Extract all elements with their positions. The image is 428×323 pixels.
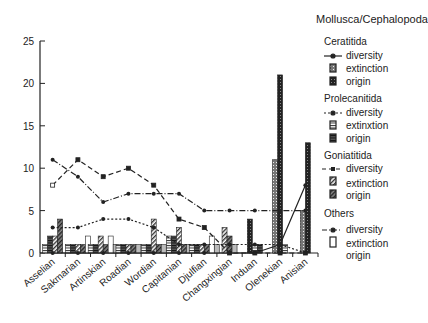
bar [177,228,182,253]
bar [300,211,305,253]
bar [141,245,146,253]
bar [136,245,141,253]
bar [93,245,98,253]
bar [222,228,227,253]
bar [273,160,278,253]
bar [121,245,126,253]
bar [108,236,113,253]
bar [172,236,177,253]
bar [214,245,219,253]
bar [146,245,151,253]
bar [116,245,121,253]
bar [53,236,58,253]
bar [156,245,161,253]
bar [305,143,310,253]
bar [182,245,187,253]
bar [194,245,199,253]
y-tick-label: 25 [23,36,35,47]
bar [70,245,75,253]
legend-symbols [318,0,419,270]
bar [278,75,283,253]
bar [43,245,48,253]
bar [65,245,70,253]
bar [80,245,85,253]
bar [247,219,252,253]
y-tick-label: 10 [23,163,35,174]
bar [232,245,237,253]
bar [189,245,194,253]
bar [98,236,103,253]
y-tick-label: 15 [23,121,35,132]
bar [151,219,156,253]
x-axis-labels: AsselianSakmarianArtinskianRoadianWordia… [21,256,310,304]
y-tick-label: 5 [28,206,34,217]
x-tick-label: Anisian [277,256,309,286]
bar [88,245,93,253]
bar [48,236,53,253]
diversity-line [53,160,306,211]
y-tick-label: 0 [28,248,34,259]
bar [58,219,63,253]
bar [131,245,136,253]
chart-bars [43,75,311,253]
bar [161,245,166,253]
y-tick-label: 20 [23,78,35,89]
